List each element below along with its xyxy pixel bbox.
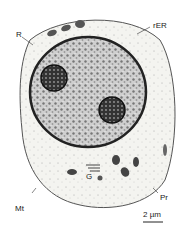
label-G: G [86, 173, 92, 181]
label-Pr: Pr [160, 194, 168, 202]
mitochondrion [112, 155, 120, 165]
label-scale: 2 µm [143, 211, 161, 219]
nucleus [30, 37, 146, 147]
mitochondrion [67, 169, 77, 175]
nucleolus [99, 97, 125, 123]
label-Mt: Mt [15, 205, 24, 213]
label-R: R [16, 31, 22, 39]
mitochondrion [133, 157, 139, 167]
label-rER: rER [153, 22, 167, 30]
cell-diagram [0, 0, 182, 238]
mitochondrion [75, 20, 85, 28]
nucleolus [41, 65, 67, 91]
mitochondrion [163, 144, 167, 156]
